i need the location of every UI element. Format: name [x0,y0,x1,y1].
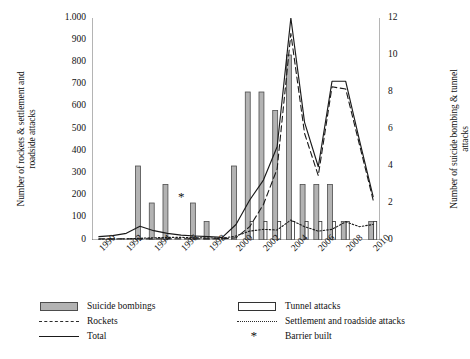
legend-label: Settlement and roadside attacks [285,316,405,326]
bar-suicide-bombings [245,92,250,240]
bar-suicide-bombings [259,92,264,240]
bar-tunnel-attacks [346,222,349,241]
legend-column-right: Tunnel attacks Settlement and roadside a… [236,300,405,345]
y-axis-title-right: Number of suicide bombing & tunnel attac… [449,59,470,219]
bar-tunnel-attacks [264,222,267,241]
y-axis-left-tick-label: 100 [40,211,86,221]
bar-suicide-bombings [328,185,333,241]
legend-label: Rockets [87,316,118,326]
bar-suicide-bombings [300,185,305,241]
bar-suicide-bombings [314,185,319,241]
bar-suicide-bombings [149,203,154,240]
legend-item-suicide-bombings: Suicide bombings [38,300,155,312]
asterisk-key-icon: * [236,331,278,342]
y-axis-title-left: Number of rockets & settlement and roads… [16,59,38,219]
y-axis-right-tick-label: 6 [388,123,410,133]
dotted-line-key-icon [236,316,278,327]
legend-item-total: Total [38,330,155,342]
legend-label: Barrier built [285,331,332,341]
y-axis-left-tick-label: 300 [40,167,86,177]
bar-tunnel-attacks [291,222,294,241]
bar-tunnel-attacks [374,222,377,241]
chart-svg: * [92,18,380,240]
y-axis-right-tick-label: 12 [388,12,410,22]
y-axis-right-tick-label: 10 [388,49,410,59]
legend-label: Total [87,331,106,341]
solid-line-key-icon [38,331,80,342]
dashed-line-key-icon [38,316,80,327]
y-axis-left-tick-label: 500 [40,123,86,133]
legend-item-settlement-roadside: Settlement and roadside attacks [236,315,405,327]
y-axis-left-tick-label: 200 [40,189,86,199]
y-axis-left-tick-label: 600 [40,100,86,110]
filled-bar-key-icon [38,301,80,312]
legend-column-left: Suicide bombings Rockets Total [38,300,155,345]
bar-suicide-bombings [286,55,291,240]
y-axis-right-tick-label: 8 [388,86,410,96]
legend-label: Suicide bombings [87,301,155,311]
hollow-bar-key-icon [236,301,278,312]
y-axis-left-tick-label: 400 [40,145,86,155]
legend-label: Tunnel attacks [285,301,340,311]
plot-area: * [92,18,380,240]
y-axis-left-tick-label: 700 [40,78,86,88]
y-axis-right-tick-label: 2 [388,197,410,207]
bar-suicide-bombings [136,166,141,240]
bar-suicide-bombings [341,222,346,241]
barrier-built-asterisk-icon: * [178,189,185,204]
chart-container: Number of rockets & settlement and roads… [0,0,470,359]
legend-item-rockets: Rockets [38,315,155,327]
bar-suicide-bombings [232,166,237,240]
y-axis-left-tick-label: 800 [40,56,86,66]
y-axis-left-tick-label: 900 [40,34,86,44]
y-axis-left-tick-label: 0 [40,234,86,244]
y-axis-left-tick-label: 1.000 [40,12,86,22]
legend-item-barrier-built: * Barrier built [236,330,405,342]
y-axis-right-tick-label: 4 [388,160,410,170]
legend-item-tunnel-attacks: Tunnel attacks [236,300,405,312]
